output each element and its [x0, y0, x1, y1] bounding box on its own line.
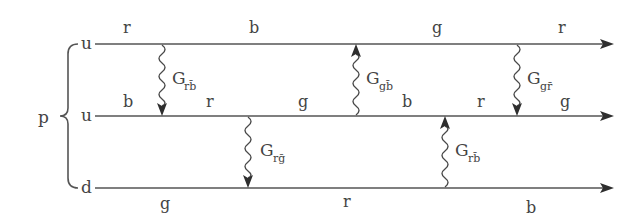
- gluon-label: G: [260, 140, 274, 160]
- arrow-down-icon: [243, 175, 253, 188]
- arrow-down-icon: [512, 103, 522, 116]
- gluon-subscript: rb̄: [184, 80, 196, 93]
- color-label: r: [206, 92, 214, 111]
- color-label: b: [402, 92, 412, 111]
- color-label: r: [343, 192, 351, 211]
- proton-label: p: [38, 107, 49, 127]
- arrow-up-icon: [440, 116, 450, 129]
- arrow-down-icon: [157, 103, 167, 116]
- color-label: b: [123, 92, 133, 111]
- quark-label-d: d: [81, 177, 92, 197]
- gluon-subscript: gr̄: [540, 80, 553, 93]
- color-label: g: [432, 18, 442, 37]
- color-label: g: [160, 194, 170, 213]
- color-label: r: [558, 18, 566, 37]
- gluon-subscript: gb̄: [379, 80, 393, 93]
- gluon-subscript: rḡ: [273, 152, 285, 165]
- color-label: b: [249, 18, 259, 37]
- gluon-subscript: rb̄: [468, 152, 480, 165]
- gluon-label: G: [455, 140, 469, 160]
- gluon-label: G: [366, 68, 380, 88]
- gluon-gbbar: G gb̄: [351, 44, 393, 115]
- color-label: b: [526, 198, 536, 217]
- color-label: r: [123, 18, 131, 37]
- quark-label-u2: u: [81, 105, 92, 125]
- gluon-rbbar-1: G rb̄: [157, 45, 196, 116]
- quark-label-u1: u: [81, 33, 92, 53]
- gluon-rbbar-2: G rb̄: [440, 116, 480, 187]
- proton-brace: [60, 44, 78, 188]
- color-label: g: [298, 92, 308, 111]
- arrow-up-icon: [351, 44, 361, 57]
- gluon-rgbar: G rḡ: [243, 117, 285, 188]
- gluon-grbar: G gr̄: [512, 45, 553, 116]
- feynman-color-diagram: p u u d r b g r b r g b r g g r b G rb̄ …: [0, 0, 637, 224]
- gluon-label: G: [527, 68, 541, 88]
- color-label: g: [560, 92, 570, 111]
- color-label: r: [477, 92, 485, 111]
